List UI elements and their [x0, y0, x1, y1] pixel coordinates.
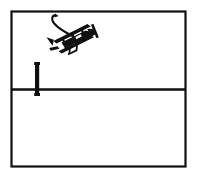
- post-cap-top: [34, 62, 40, 65]
- line-drawing-svg: [0, 0, 197, 180]
- post-cap-bottom: [34, 93, 40, 96]
- post-body: [35, 62, 39, 96]
- vertical-post: [34, 62, 40, 96]
- illustration-canvas: [0, 0, 197, 180]
